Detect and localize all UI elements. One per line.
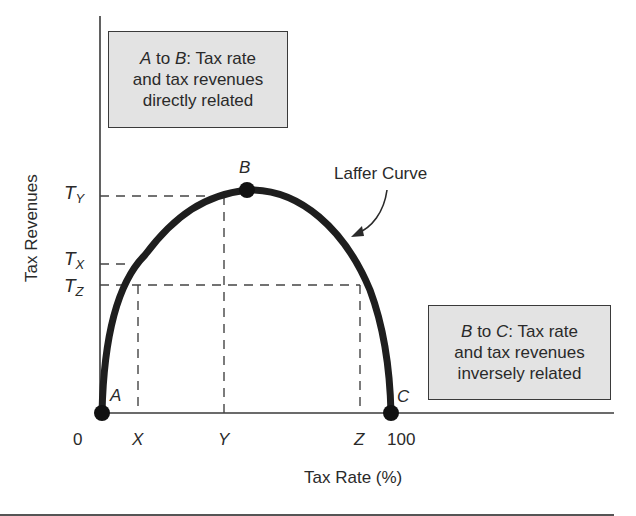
curve-label: Laffer Curve (334, 164, 427, 184)
box-ab-from: A (140, 49, 151, 68)
tick-z: Z (354, 430, 364, 450)
arrow-head-icon (351, 226, 364, 237)
tick-100: 100 (387, 430, 415, 450)
tick-tx: TX (64, 248, 84, 272)
tick-x: X (132, 430, 143, 450)
point-a-dot (94, 405, 110, 421)
tick-0: 0 (73, 430, 82, 450)
tick-ty: TY (64, 182, 84, 206)
point-c-label: C (397, 387, 409, 407)
x-axis-title: Tax Rate (%) (304, 468, 402, 488)
box-bc-line1: : Tax rate (508, 322, 578, 341)
box-bc-line2: and tax revenues (429, 342, 610, 363)
laffer-curve (102, 190, 391, 413)
point-c-dot (383, 405, 399, 421)
box-bc-to: C (496, 322, 508, 341)
point-b-dot (239, 182, 255, 198)
annotation-b-to-c: B to C: Tax rate and tax revenues invers… (428, 305, 611, 400)
laffer-chart (0, 0, 636, 516)
box-bc-from: B (461, 322, 472, 341)
tick-y: Y (218, 430, 229, 450)
box-ab-line3: directly related (109, 90, 287, 111)
point-a-label: A (110, 386, 121, 406)
tick-tz: TZ (64, 275, 84, 299)
box-ab-to: B (175, 49, 186, 68)
y-axis-title: Tax Revenues (22, 174, 42, 282)
box-ab-to-word: to (151, 49, 175, 68)
point-b-label: B (239, 158, 250, 178)
box-ab-line1: : Tax rate (186, 49, 256, 68)
box-ab-line2: and tax revenues (109, 69, 287, 90)
box-bc-to-word: to (472, 322, 496, 341)
annotation-a-to-b: A to B: Tax rate and tax revenues direct… (108, 31, 288, 128)
box-bc-line3: inversely related (429, 363, 610, 384)
